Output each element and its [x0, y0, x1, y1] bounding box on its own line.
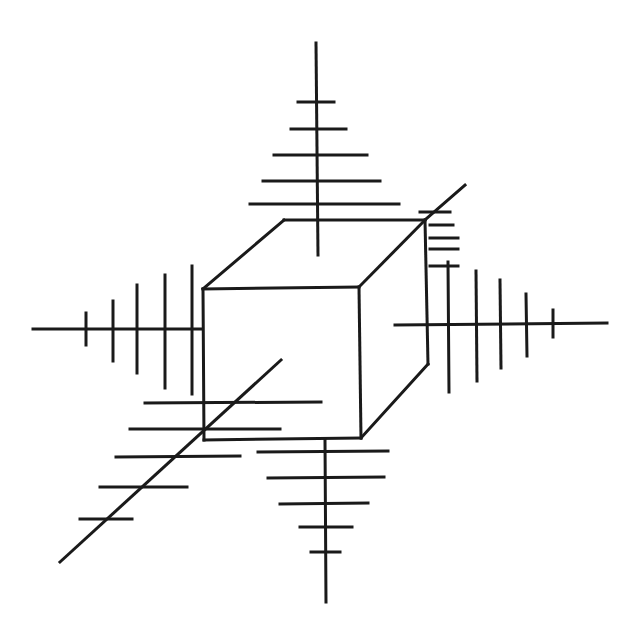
axis-top — [250, 43, 399, 255]
cube — [203, 220, 428, 440]
axis-tick — [448, 262, 449, 392]
cube-front-edge — [203, 289, 204, 440]
axis-tick — [258, 451, 388, 452]
axis-tick — [526, 294, 527, 356]
axis-tick — [145, 402, 321, 403]
axis-line — [325, 440, 326, 602]
axis-bottom — [258, 440, 388, 602]
axis-line — [60, 360, 281, 562]
axis-tick — [476, 271, 477, 381]
cube-axes-diagram — [0, 0, 639, 636]
cube-front-edge — [203, 287, 359, 289]
axes — [33, 43, 607, 602]
cube-depth-edge — [361, 364, 428, 438]
cube-front-edge — [204, 438, 361, 440]
axis-tick — [280, 503, 368, 504]
axis-tick — [268, 477, 384, 478]
cube-depth-edge — [359, 220, 425, 287]
axis-line — [425, 185, 465, 220]
axis-left — [33, 266, 202, 394]
axis-tick — [116, 456, 240, 457]
axis-tick — [500, 280, 501, 368]
cube-depth-edge — [203, 220, 284, 289]
axis-line — [316, 43, 318, 255]
cube-front-edge — [359, 287, 361, 438]
cube-back-edge — [425, 220, 428, 364]
